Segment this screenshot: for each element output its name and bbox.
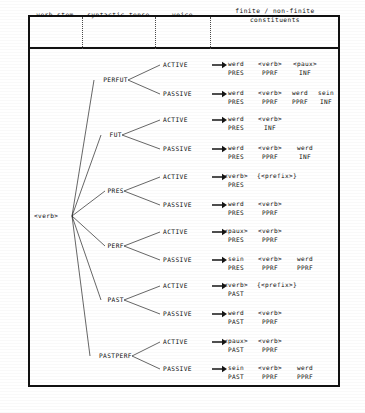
- constituent-feature: PAST: [218, 318, 254, 327]
- constituent-pres-active-2: {<prefix>}: [252, 172, 302, 181]
- constituent-pres-passive-1: werd PRES: [218, 200, 254, 217]
- constituent-word: sein: [312, 89, 340, 98]
- constituent-feature: PPRF: [252, 153, 288, 162]
- constituent-pastperf-passive-1: sein PAST: [218, 364, 254, 381]
- voice-node-pastperf-active: ACTIVE: [163, 338, 188, 346]
- voice-node-fut-active: ACTIVE: [163, 116, 188, 124]
- constituent-word: <paux>: [218, 337, 254, 346]
- constituent-pres-passive-2: <verb> PPRF: [252, 200, 288, 217]
- voice-node-fut-passive: PASSIVE: [163, 145, 192, 153]
- tense-node-pres: PRES: [62, 187, 124, 195]
- header-voice: voice: [155, 11, 210, 20]
- constituent-pastperf-passive-2: <verb> PPRF: [252, 364, 288, 381]
- column-divider-2: [155, 17, 156, 49]
- constituent-feature: PRES: [218, 124, 254, 133]
- constituent-feature: PPRF: [252, 318, 288, 327]
- voice-node-perfut-passive: PASSIVE: [163, 90, 192, 98]
- tense-node-pastperf: PASTPERF: [62, 352, 132, 360]
- constituent-word: <paux>: [287, 60, 323, 69]
- constituent-past-active-2: {<prefix>}: [252, 281, 302, 290]
- constituent-perf-passive-1: sein PRES: [218, 255, 254, 272]
- constituent-feature: PRES: [218, 236, 254, 245]
- constituent-perfut-passive-3: werd PPRF: [285, 89, 315, 106]
- header-constituents-line2: constituents: [250, 16, 300, 23]
- constituent-perfut-passive-4: sein INF: [312, 89, 340, 106]
- voice-node-pastperf-passive: PASSIVE: [163, 365, 192, 373]
- tense-node-past: PAST: [62, 296, 124, 304]
- constituent-feature: INF: [287, 153, 323, 162]
- constituent-feature: INF: [287, 69, 323, 78]
- constituent-word: werd: [287, 255, 323, 264]
- constituent-feature: PRES: [218, 98, 254, 107]
- constituent-word: <paux>: [218, 227, 254, 236]
- constituent-pastperf-passive-3: werd PPRF: [287, 364, 323, 381]
- constituent-pastperf-active-2: <verb> PPRF: [252, 337, 288, 354]
- constituent-feature: PPRF: [252, 264, 288, 273]
- voice-node-perf-passive: PASSIVE: [163, 256, 192, 264]
- constituent-feature: PRES: [218, 153, 254, 162]
- constituent-word: sein: [218, 255, 254, 264]
- constituent-feature: PRES: [218, 209, 254, 218]
- voice-node-past-passive: PASSIVE: [163, 310, 192, 318]
- constituent-perf-passive-2: <verb> PPRF: [252, 255, 288, 272]
- constituent-word: <verb>: [252, 255, 288, 264]
- constituent-fut-active-2: <verb> INF: [252, 115, 288, 132]
- constituent-feature: PPRF: [285, 98, 315, 107]
- constituent-feature: INF: [252, 124, 288, 133]
- header-constituents: finite / non-finite constituents: [210, 7, 340, 24]
- constituent-word: werd: [218, 89, 254, 98]
- constituent-word: werd: [285, 89, 315, 98]
- constituent-past-passive-2: <verb> PPRF: [252, 309, 288, 326]
- constituent-feature: PPRF: [287, 264, 323, 273]
- constituent-feature: PAST: [218, 346, 254, 355]
- constituent-word: <verb>: [218, 281, 254, 290]
- constituent-pastperf-active-1: <paux> PAST: [218, 337, 254, 354]
- constituent-word: werd: [218, 144, 254, 153]
- constituent-feature: PAST: [218, 290, 254, 299]
- constituent-perf-passive-3: werd PPRF: [287, 255, 323, 272]
- constituent-word: <verb>: [252, 200, 288, 209]
- constituent-perfut-active-3: <paux> INF: [287, 60, 323, 77]
- constituent-optional-prefix: {<prefix>}: [252, 281, 302, 290]
- constituent-word: werd: [218, 200, 254, 209]
- constituent-word: sein: [218, 364, 254, 373]
- constituent-word: <verb>: [218, 172, 254, 181]
- voice-node-perf-active: ACTIVE: [163, 228, 188, 236]
- constituent-word: werd: [287, 364, 323, 373]
- constituent-word: <verb>: [252, 115, 288, 124]
- constituent-word: werd: [287, 144, 323, 153]
- constituent-perfut-passive-1: werd PRES: [218, 89, 254, 106]
- constituent-word: <verb>: [252, 364, 288, 373]
- constituent-word: werd: [218, 309, 254, 318]
- constituent-word: <verb>: [252, 60, 288, 69]
- header-syntactic-tense: syntactic tense: [82, 11, 155, 20]
- constituent-word: <verb>: [252, 89, 288, 98]
- constituent-perfut-active-1: werd PRES: [218, 60, 254, 77]
- constituent-pres-active-1: <verb> PRES: [218, 172, 254, 189]
- voice-node-pres-passive: PASSIVE: [163, 201, 192, 209]
- constituent-perf-active-1: <paux> PRES: [218, 227, 254, 244]
- verb-paradigm-figure: verb stem syntactic tense voice finite /…: [0, 0, 365, 413]
- tense-node-fut: FUT: [62, 131, 122, 139]
- constituent-feature: PRES: [218, 264, 254, 273]
- constituent-perfut-passive-2: <verb> PPRF: [252, 89, 288, 106]
- constituent-word: <verb>: [252, 309, 288, 318]
- constituent-past-passive-1: werd PAST: [218, 309, 254, 326]
- tense-node-perf: PERF: [62, 242, 124, 250]
- constituent-feature: PPRF: [252, 373, 288, 382]
- constituent-feature: PPRF: [252, 236, 288, 245]
- voice-node-pres-active: ACTIVE: [163, 173, 188, 181]
- constituent-word: <verb>: [252, 337, 288, 346]
- constituent-feature: PPRF: [252, 346, 288, 355]
- header-verb-stem: verb stem: [28, 11, 82, 20]
- constituent-fut-active-1: werd PRES: [218, 115, 254, 132]
- constituent-fut-passive-3: werd INF: [287, 144, 323, 161]
- constituent-feature: INF: [312, 98, 340, 107]
- constituent-word: werd: [218, 60, 254, 69]
- constituent-feature: PPRF: [287, 373, 323, 382]
- constituent-feature: PRES: [218, 181, 254, 190]
- root-node-verb: <verb>: [34, 212, 58, 220]
- constituent-fut-passive-1: werd PRES: [218, 144, 254, 161]
- constituent-past-active-1: <verb> PAST: [218, 281, 254, 298]
- constituent-feature: PPRF: [252, 98, 288, 107]
